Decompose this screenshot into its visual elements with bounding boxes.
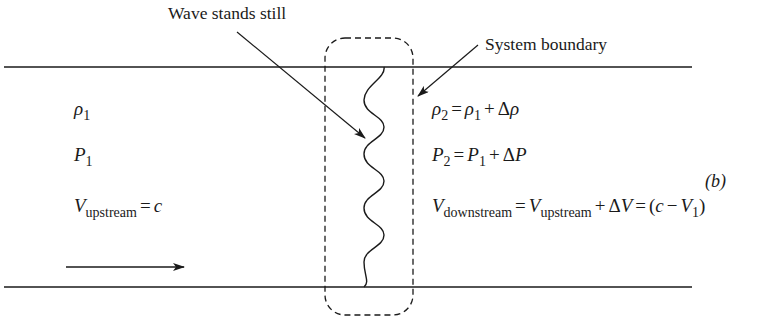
- wave-front-curve: [364, 67, 384, 287]
- wave-stands-still-label: Wave stands still: [168, 5, 286, 23]
- upstream-pressure: P1: [74, 145, 93, 164]
- diagram-canvas: Wave stands still System boundary ρ1 P1 …: [0, 0, 760, 321]
- system-boundary-dashed-box: [325, 38, 413, 315]
- upstream-velocity: Vupstream=c: [74, 196, 162, 215]
- downstream-density-equation: ρ2=ρ1+Δρ: [432, 99, 519, 118]
- downstream-pressure-equation: P2=P1+ΔP: [432, 145, 526, 164]
- panel-label: (b): [705, 172, 726, 190]
- boundary-label-arrow: [418, 45, 478, 96]
- downstream-velocity-equation: Vdownstream=Vupstream+ΔV=(c−V1): [432, 196, 705, 215]
- wave-label-arrow: [237, 32, 365, 138]
- upstream-density: ρ1: [74, 99, 90, 118]
- system-boundary-label: System boundary: [485, 36, 607, 54]
- diagram-graphics: [0, 0, 760, 321]
